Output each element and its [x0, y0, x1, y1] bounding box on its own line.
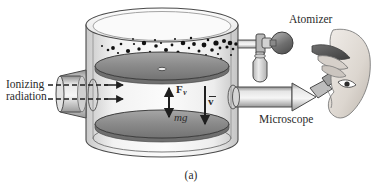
label-velocity: v	[208, 96, 216, 108]
observer	[312, 29, 370, 118]
atomizer	[238, 32, 293, 82]
lower-plate	[95, 110, 229, 142]
millikan-oil-drop-diagram	[0, 0, 382, 193]
label-velocity-symbol: v	[208, 95, 214, 107]
label-viscous-force-symbol: F	[176, 83, 183, 95]
label-atomizer: Atomizer	[289, 13, 332, 25]
label-ionizing-line1: Ionizing	[6, 78, 44, 90]
label-viscous-force: Fv	[176, 84, 187, 97]
label-ionizing-radiation: Ionizingradiation	[6, 78, 47, 103]
upper-plate	[95, 52, 229, 84]
pinhole	[158, 67, 166, 70]
microscope	[228, 71, 339, 111]
label-weight: mg	[174, 112, 187, 124]
label-ionizing-line2: radiation	[6, 90, 47, 102]
label-viscous-force-subscript: v	[183, 88, 186, 97]
label-microscope: Microscope	[259, 113, 313, 125]
figure-caption: (a)	[0, 169, 382, 181]
